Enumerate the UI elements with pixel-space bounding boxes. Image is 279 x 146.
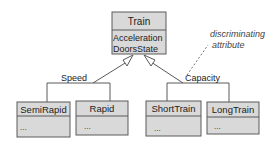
class-train-attr-doorsstate: DoorsState	[113, 44, 158, 54]
capacity-tree-connector	[167, 83, 229, 102]
class-rapid: Rapid ...	[76, 101, 128, 135]
capacity-generalization-arrowhead-icon	[144, 55, 155, 66]
class-longtrain-name: LongTrain	[212, 104, 254, 115]
class-semirapid-name: SemiRapid	[20, 104, 66, 115]
generalization-capacity: Capacity	[144, 55, 229, 102]
annotation-line-2: attribute	[212, 40, 245, 50]
speed-tree-connector	[47, 83, 110, 102]
speed-arrow-line	[93, 60, 130, 83]
generalization-speed: Speed	[47, 55, 133, 102]
discriminator-speed: Speed	[61, 73, 87, 83]
annotation-line-1: discriminating	[210, 29, 265, 39]
class-rapid-body: ...	[84, 122, 91, 131]
class-longtrain: LongTrain ...	[207, 102, 259, 134]
uml-diagram: Train Acceleration DoorsState Speed Capa…	[0, 0, 279, 146]
class-train: Train Acceleration DoorsState	[112, 12, 166, 54]
class-shorttrain: ShortTrain ...	[146, 101, 201, 136]
class-longtrain-body: ...	[214, 122, 221, 131]
speed-generalization-arrowhead-icon	[123, 55, 133, 66]
class-train-attr-acceleration: Acceleration	[113, 33, 163, 43]
annotation-discriminating-attribute: discriminating attribute	[187, 29, 265, 75]
discriminator-capacity: Capacity	[185, 73, 221, 83]
class-rapid-name: Rapid	[90, 103, 115, 114]
class-semirapid: SemiRapid ...	[17, 102, 70, 137]
class-shorttrain-body: ...	[154, 124, 161, 133]
annotation-dashed-line	[187, 45, 208, 75]
class-semirapid-body: ...	[20, 123, 27, 132]
class-shorttrain-name: ShortTrain	[152, 103, 196, 114]
class-train-name: Train	[128, 16, 150, 27]
